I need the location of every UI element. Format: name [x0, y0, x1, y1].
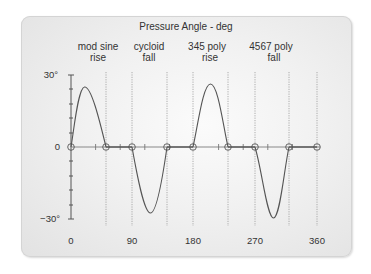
segment-label-mod-sine: mod sine [78, 41, 119, 52]
pressure-angle-chart: Pressure Angle - deg mod sine rise cyclo… [0, 0, 371, 274]
x-tick-360: 360 [309, 235, 325, 246]
pressure-angle-curve [71, 84, 317, 218]
x-tick-270: 270 [247, 235, 263, 246]
x-tick-0: 0 [68, 235, 73, 246]
345-poly-rise-curve [193, 84, 228, 147]
y-tick-0: 0 [55, 141, 60, 152]
x-tick-180: 180 [185, 235, 201, 246]
x-tick-90: 90 [127, 235, 138, 246]
segment-label-4567-poly: 4567 poly [249, 41, 292, 52]
segment-label-345-poly-sub: rise [202, 52, 219, 63]
chart-title: Pressure Angle - deg [139, 21, 232, 32]
segment-label-4567-poly-sub: fall [268, 52, 281, 63]
mod-sine-rise-curve [71, 87, 106, 147]
segment-label-cycloid: cycloid [134, 41, 165, 52]
4567-poly-fall-curve [255, 147, 289, 218]
cycloid-fall-curve [132, 147, 167, 213]
segment-label-cycloid-sub: fall [143, 52, 156, 63]
segment-label-mod-sine-sub: rise [90, 52, 107, 63]
y-tick-neg30: −30° [40, 213, 60, 224]
boundary-grid-lines [106, 72, 317, 226]
segment-label-345-poly: 345 poly [188, 41, 226, 52]
y-tick-30: 30° [44, 69, 59, 80]
